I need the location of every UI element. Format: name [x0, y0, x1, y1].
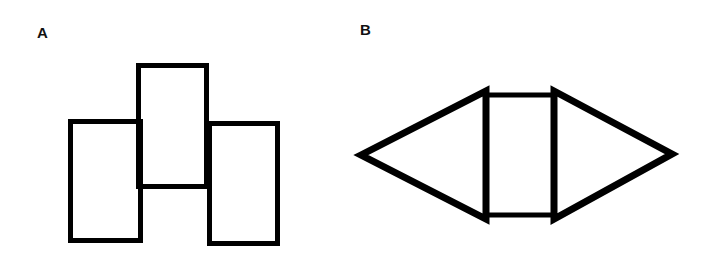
figure-canvas	[0, 0, 708, 268]
panel-a	[71, 66, 278, 244]
panel-a-left-rectangle	[71, 122, 141, 241]
panel-b-left-triangle	[361, 91, 486, 219]
panel-b	[361, 91, 672, 219]
panel-a-right-rectangle	[210, 124, 278, 244]
panel-b-middle-rectangle	[486, 95, 554, 215]
panel-b-right-triangle	[554, 91, 672, 219]
panel-a-middle-rectangle	[139, 66, 207, 187]
